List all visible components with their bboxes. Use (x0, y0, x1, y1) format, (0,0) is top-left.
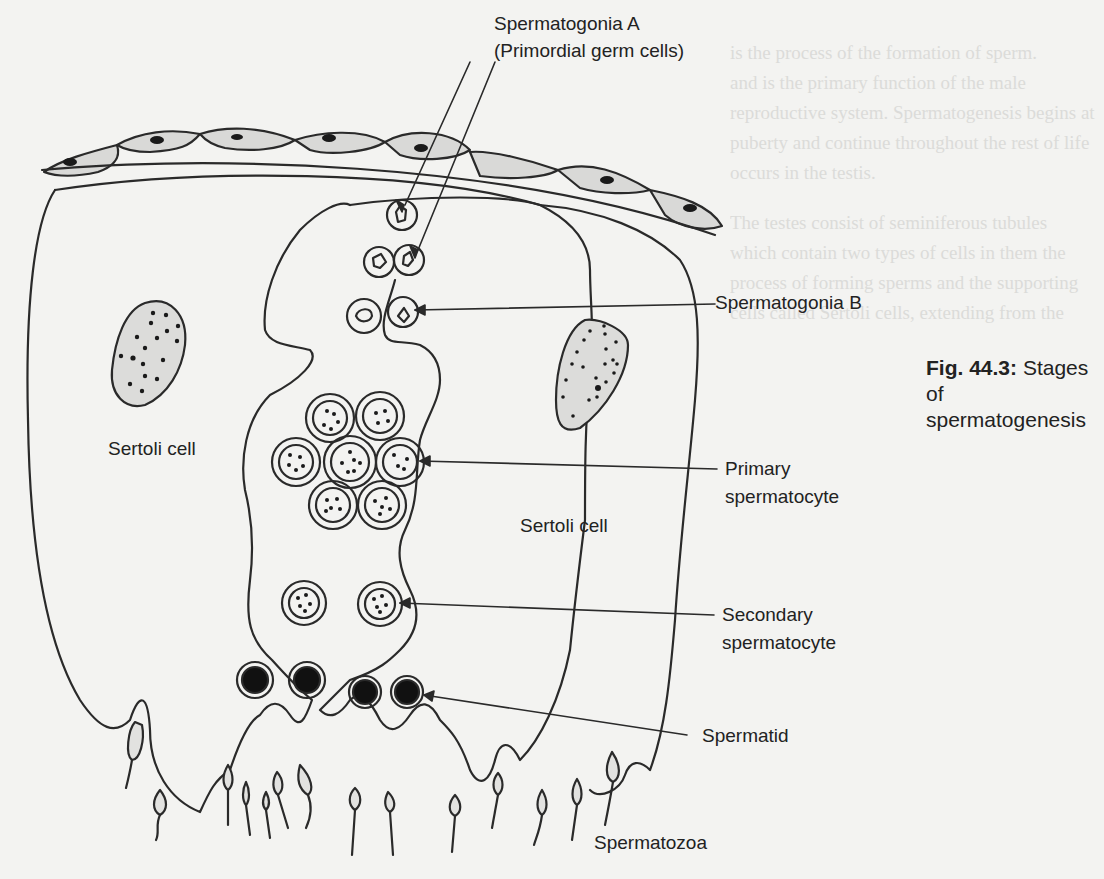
label-spermatozoa: Spermatozoa (594, 831, 707, 855)
secondary-dots (296, 593, 388, 614)
label-spermatogonia-b: Spermatogonia B (715, 291, 862, 315)
sertoli-nucleus-right (556, 320, 628, 430)
nucleus-dots (119, 311, 619, 418)
label-spermatid: Spermatid (702, 724, 789, 748)
label-primary-line2: spermatocyte (725, 485, 839, 509)
spermatocyte-dots (287, 409, 409, 516)
figure-number: Fig. 44.3: (926, 356, 1017, 379)
primary-spermatocytes (272, 392, 424, 529)
label-secondary-line2: spermatocyte (722, 631, 836, 655)
label-sertoli-cell-center: Sertoli cell (520, 514, 608, 538)
label-secondary-line1: Secondary (722, 603, 836, 627)
sertoli-cell-left-outline (27, 190, 350, 812)
label-primary-line1: Primary (725, 457, 839, 481)
sertoli-nucleus-left (112, 301, 186, 406)
label-secondary-spermatocyte: Secondary spermatocyte (722, 603, 836, 655)
spermatozoa (126, 722, 619, 855)
figure-caption: Fig. 44.3: Stages of spermatogenesis (926, 355, 1104, 433)
secondary-spermatocytes (282, 581, 402, 626)
label-primordial-germ-cells: (Primordial germ cells) (494, 39, 684, 63)
label-sertoli-cell-left: Sertoli cell (108, 437, 196, 461)
sertoli-cell-right-outline (540, 205, 698, 794)
figure-title-line2: spermatogenesis (926, 407, 1104, 433)
label-primary-spermatocyte: Primary spermatocyte (725, 457, 839, 509)
label-spermatogonia-a: Spermatogonia A (494, 12, 640, 36)
